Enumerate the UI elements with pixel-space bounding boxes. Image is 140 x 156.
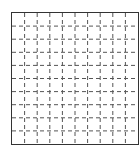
dashed-grid	[12, 13, 138, 144]
grid-frame	[11, 12, 139, 145]
